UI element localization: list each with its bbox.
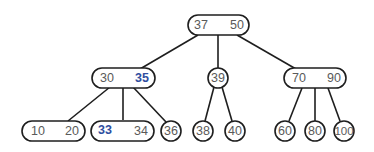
key-50: 50: [230, 18, 244, 32]
key-40: 40: [228, 124, 242, 138]
tree-diagram: 37 50 30 35 39 70 90 10 20 33 34: [0, 0, 374, 152]
edge-30-35-10-20: [68, 87, 110, 121]
node-39: 39: [208, 68, 228, 88]
key-38: 38: [196, 124, 210, 138]
key-80: 80: [308, 124, 322, 138]
node-38: 38: [193, 121, 213, 141]
edge-30-35-36: [133, 87, 166, 122]
node-30-35: 30 35: [92, 68, 155, 88]
edge-39-38: [205, 87, 214, 121]
node-100: 100: [334, 121, 354, 141]
key-35-highlighted: 35: [135, 71, 149, 85]
node-80: 80: [305, 121, 325, 141]
edge-70-90-100: [328, 88, 340, 121]
key-10: 10: [31, 124, 45, 138]
key-37: 37: [194, 18, 208, 32]
key-70: 70: [292, 71, 306, 85]
edge-root-70-90: [237, 35, 296, 69]
edge-root-30-35: [140, 35, 198, 69]
node-60: 60: [275, 121, 295, 141]
key-39: 39: [211, 71, 225, 85]
key-30: 30: [100, 71, 114, 85]
node-70-90: 70 90: [284, 68, 346, 88]
node-10-20: 10 20: [22, 121, 85, 141]
key-20: 20: [65, 124, 79, 138]
edge-70-90-60: [289, 88, 302, 121]
key-100: 100: [334, 125, 353, 137]
node-40: 40: [225, 121, 245, 141]
node-36: 36: [161, 121, 181, 141]
node-root: 37 50: [188, 15, 249, 35]
key-34: 34: [134, 124, 148, 138]
edge-39-40: [222, 87, 232, 121]
key-33-highlighted: 33: [98, 123, 112, 137]
key-90: 90: [327, 71, 341, 85]
tree-svg: 37 50 30 35 39 70 90 10 20 33 34: [0, 0, 374, 152]
key-60: 60: [278, 124, 292, 138]
node-33-34: 33 34: [91, 121, 154, 141]
key-36: 36: [164, 124, 178, 138]
